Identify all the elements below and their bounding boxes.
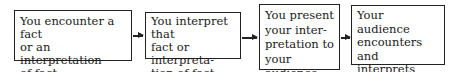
step-box-2: You interpret that fact or interpreta- t… bbox=[145, 12, 241, 59]
step-box-1: You encounter a fact or an interpretatio… bbox=[14, 10, 132, 61]
step-box-4: Your audience encounters and interprets … bbox=[351, 5, 445, 65]
arrow-1-icon bbox=[133, 35, 143, 37]
step-box-3: You present your inter- pretation to you… bbox=[259, 4, 340, 70]
arrow-3-icon bbox=[341, 37, 350, 39]
arrow-2-icon bbox=[242, 37, 257, 39]
